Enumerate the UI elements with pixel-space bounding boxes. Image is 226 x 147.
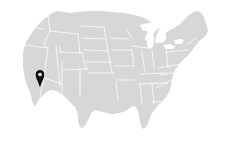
location-map-widget[interactable]: United States of America — [0, 0, 226, 147]
map-marker-layer: Southern California — [0, 0, 226, 147]
map-marker-1[interactable]: Southern California — [36, 70, 45, 87]
map-marker-1-label: Southern California — [36, 87, 37, 88]
map-pin-icon — [36, 70, 45, 87]
